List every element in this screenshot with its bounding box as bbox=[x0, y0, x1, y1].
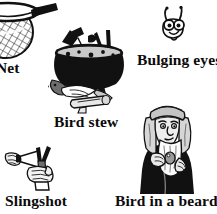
caption-net: Net bbox=[0, 60, 20, 76]
bulging-eyes-creature-illustration bbox=[157, 6, 191, 44]
bearded-man-illustration bbox=[134, 100, 202, 196]
caption-bird-stew: Bird stew bbox=[54, 114, 118, 130]
caption-bulging-eyes: Bulging eyes bbox=[137, 52, 217, 68]
caption-slingshot: Slingshot bbox=[5, 193, 67, 209]
illustration-page: Net bbox=[0, 0, 217, 214]
cauldron-illustration bbox=[48, 24, 130, 114]
caption-bird-in-a-beard: Bird in a beard bbox=[115, 193, 217, 209]
slingshot-illustration bbox=[4, 142, 64, 192]
